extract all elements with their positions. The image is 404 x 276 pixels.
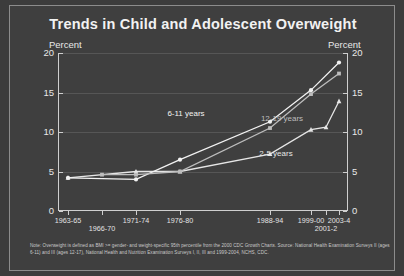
data-series-layer: [58, 53, 348, 211]
x-tick: [326, 211, 327, 215]
x-tick: [68, 211, 69, 215]
data-point-marker: [178, 158, 182, 162]
data-point-marker: [309, 92, 313, 96]
y-tick-right: [343, 211, 347, 212]
x-axis-label: 1988-94: [257, 216, 283, 225]
data-point-marker: [178, 170, 182, 174]
series-annotation-6-11-years: 6-11 years: [167, 109, 204, 118]
data-point-marker: [309, 88, 313, 92]
x-tick: [180, 211, 181, 215]
x-axis-label: 2003-4: [328, 216, 350, 225]
x-axis-label: 1971-74: [123, 216, 149, 225]
data-point-marker: [268, 126, 272, 130]
x-tick: [102, 211, 103, 215]
x-tick: [136, 211, 137, 215]
x-axis-label: 1963-65: [55, 216, 81, 225]
y-tick-left: [59, 211, 63, 212]
series-line-12-19-years: [102, 74, 339, 175]
data-point-marker: [337, 72, 341, 76]
chart-footnote: Note: Overweight is defined as BMI >= ge…: [30, 243, 390, 257]
chart-frame: Trends in Child and Adolescent Overweigh…: [9, 5, 395, 271]
x-tick: [311, 211, 312, 215]
y-axis-label-left: 15: [32, 87, 54, 98]
x-axis-label: 1976-80: [167, 216, 193, 225]
data-point-marker: [337, 99, 342, 104]
x-tick: [270, 211, 271, 215]
chart-screenshot: Trends in Child and Adolescent Overweigh…: [0, 0, 404, 276]
y-axis-label-left: 5: [32, 166, 54, 177]
data-point-marker: [100, 173, 104, 177]
y-axis-label-right: 10: [352, 126, 374, 137]
data-point-marker: [66, 176, 70, 180]
data-point-marker: [134, 177, 138, 181]
series-annotation-2-5-years: 2-5 years: [259, 148, 292, 157]
x-axis-label: 2001-2: [315, 224, 337, 233]
x-axis-label: 1966-70: [89, 224, 115, 233]
y-axis-label-right: 0: [352, 205, 374, 216]
y-axis-label-right: 5: [352, 166, 374, 177]
plot-area: 0055101015152020 6-11 years12-19 years2-…: [58, 53, 348, 211]
y-axis-label-right: 15: [352, 87, 374, 98]
y-axis-label-left: 20: [32, 47, 54, 58]
y-axis-label-left: 10: [32, 126, 54, 137]
chart-title: Trends in Child and Adolescent Overweigh…: [10, 16, 396, 32]
y-axis-label-right: 20: [352, 47, 374, 58]
data-point-marker: [337, 60, 341, 64]
y-axis-label-left: 0: [32, 205, 54, 216]
x-tick: [339, 211, 340, 215]
data-point-marker: [134, 173, 138, 177]
series-annotation-12-19-years: 12-19 years: [261, 113, 303, 122]
